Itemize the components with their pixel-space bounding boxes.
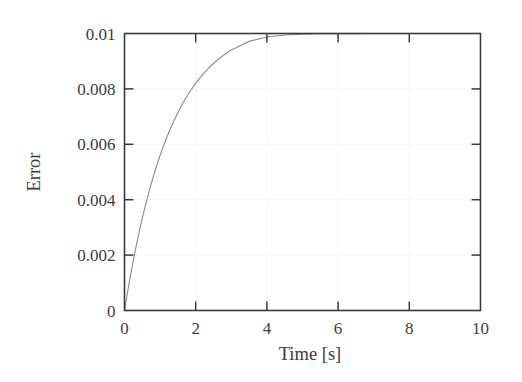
y-tick-label: 0.01 bbox=[86, 25, 116, 44]
x-tick-label: 4 bbox=[263, 319, 272, 338]
y-tick-label: 0 bbox=[107, 302, 116, 321]
x-axis-title: Time [s] bbox=[279, 344, 342, 364]
y-axis-tick-marks bbox=[125, 89, 134, 255]
x-axis-top-tick-marks bbox=[196, 34, 410, 43]
x-axis-tick-labels: 0246810 bbox=[120, 319, 489, 338]
plot-frame bbox=[125, 34, 481, 311]
y-tick-label: 0.006 bbox=[77, 135, 115, 154]
x-tick-label: 8 bbox=[405, 319, 414, 338]
y-axis-right-tick-marks bbox=[472, 89, 481, 255]
chart-figure: 00.0020.0040.0060.0080.01 0246810 Time [… bbox=[0, 0, 522, 382]
vertical-gridlines bbox=[196, 34, 410, 311]
y-tick-label: 0.002 bbox=[77, 246, 115, 265]
x-tick-label: 10 bbox=[472, 319, 489, 338]
y-axis-title: Error bbox=[24, 152, 44, 191]
x-tick-label: 2 bbox=[191, 319, 200, 338]
y-axis-tick-labels: 00.0020.0040.0060.0080.01 bbox=[77, 25, 116, 321]
data-series-error bbox=[125, 34, 481, 311]
y-tick-label: 0.004 bbox=[77, 191, 116, 210]
x-tick-label: 6 bbox=[334, 319, 343, 338]
x-axis-tick-marks bbox=[196, 302, 410, 311]
y-tick-label: 0.008 bbox=[77, 80, 115, 99]
line-chart-canvas: 00.0020.0040.0060.0080.01 0246810 Time [… bbox=[0, 0, 522, 382]
x-tick-label: 0 bbox=[120, 319, 129, 338]
